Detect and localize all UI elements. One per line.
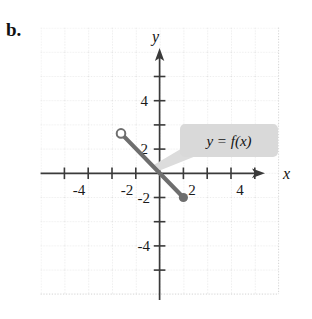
y-tick-label-neg2: -2 <box>138 190 151 206</box>
x-tick-label-pos4: 4 <box>236 182 244 198</box>
x-axis-label: x <box>282 165 290 182</box>
open-circle-endpoint <box>117 129 126 138</box>
function-callout: y = f(x) <box>180 124 278 157</box>
y-tick-label-neg4: -4 <box>138 238 151 254</box>
filled-circle-endpoint <box>179 193 188 202</box>
x-tick-label-neg2: -2 <box>121 182 134 198</box>
coordinate-plane-graph: x y -4 -2 2 4 4 <box>0 0 312 319</box>
figure-container: b. <box>0 0 312 319</box>
x-tick-label-pos2: 2 <box>188 182 196 198</box>
y-axis-label: y <box>150 28 160 46</box>
callout-label: y = f(x) <box>204 133 251 150</box>
y-tick-label-pos4: 4 <box>141 93 149 109</box>
x-tick-label-neg4: -4 <box>73 182 86 198</box>
